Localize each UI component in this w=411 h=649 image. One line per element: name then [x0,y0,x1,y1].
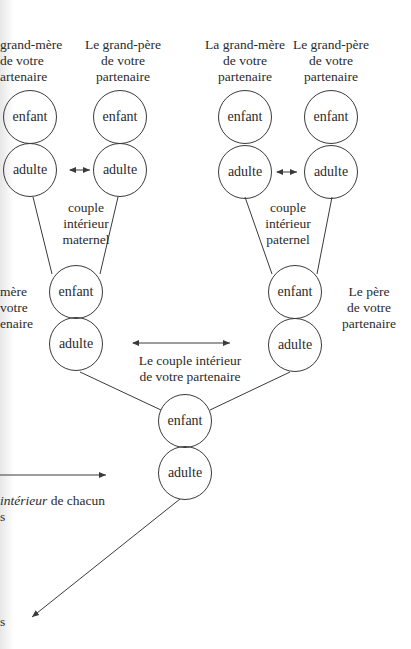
label-partner-couple: Le couple intérieur de votre partenaire [120,353,260,385]
label-line: artenaire [0,69,62,85]
label-bottom-fragment: s [0,614,5,630]
label-line: couple [248,200,328,216]
label-line: partenaire [199,69,291,85]
label-line: de votre [80,53,166,69]
node-paternal-grandfather-adult: adulte [304,145,358,199]
label-paternal-grandfather: Le grand-père de votre partenaire [288,37,374,85]
label-line: La grand-mère [199,37,291,53]
label-line: enaire [0,316,33,332]
label-line: partenaire [327,316,411,332]
label-line: intérieur [46,216,126,232]
label-line: paternel [248,232,328,248]
label-line: de votre partenaire [120,369,260,385]
node-father-adult: adulte [268,318,322,372]
label-line: intérieur [248,216,328,232]
label-line: s [0,614,5,630]
label-line: mère [0,284,33,300]
label-mother: mère votre enaire [0,284,33,332]
label-line: de votre [0,53,62,69]
label-line: de votre [199,53,291,69]
label-line: grand-mère [0,37,62,53]
node-father-child: enfant [268,265,322,319]
label-italic: intérieur [0,493,47,508]
label-line: Le couple intérieur [120,353,260,369]
label-maternal-grandfather: Le grand-père de votre partenaire [80,37,166,85]
label-line: de votre [327,300,411,316]
label-line: partenaire [80,69,166,85]
label-line: votre [0,300,33,316]
label-father: Le père de votre partenaire [327,284,411,332]
label-maternal-couple: couple intérieur maternel [46,200,126,248]
label-maternal-grandmother: grand-mère de votre artenaire [0,37,62,85]
label-line: couple [46,200,126,216]
node-partner-child: enfant [158,394,212,448]
node-mother-adult: adulte [49,317,103,371]
node-maternal-grandmother-child: enfant [3,90,57,144]
node-mother-child: enfant [49,265,103,319]
node-maternal-grandfather-child: enfant [93,90,147,144]
family-tree-diagram: grand-mère de votre artenaire Le grand-p… [0,0,411,649]
label-interior-each: intérieur de chacun s [0,493,105,525]
label-line: s [0,509,105,525]
node-paternal-grandmother-adult: adulte [218,145,272,199]
label-rest: de chacun [47,493,105,508]
label-line: Le grand-père [288,37,374,53]
label-line: Le père [327,284,411,300]
node-paternal-grandfather-child: enfant [304,90,358,144]
label-paternal-couple: couple intérieur paternel [248,200,328,248]
node-paternal-grandmother-child: enfant [218,90,272,144]
node-partner-adult: adulte [158,446,212,500]
label-line: maternel [46,232,126,248]
node-maternal-grandfather-adult: adulte [93,143,147,197]
label-line: Le grand-père [80,37,166,53]
node-maternal-grandmother-adult: adulte [3,143,57,197]
label-paternal-grandmother: La grand-mère de votre partenaire [199,37,291,85]
label-line: partenaire [288,69,374,85]
label-line: de votre [288,53,374,69]
